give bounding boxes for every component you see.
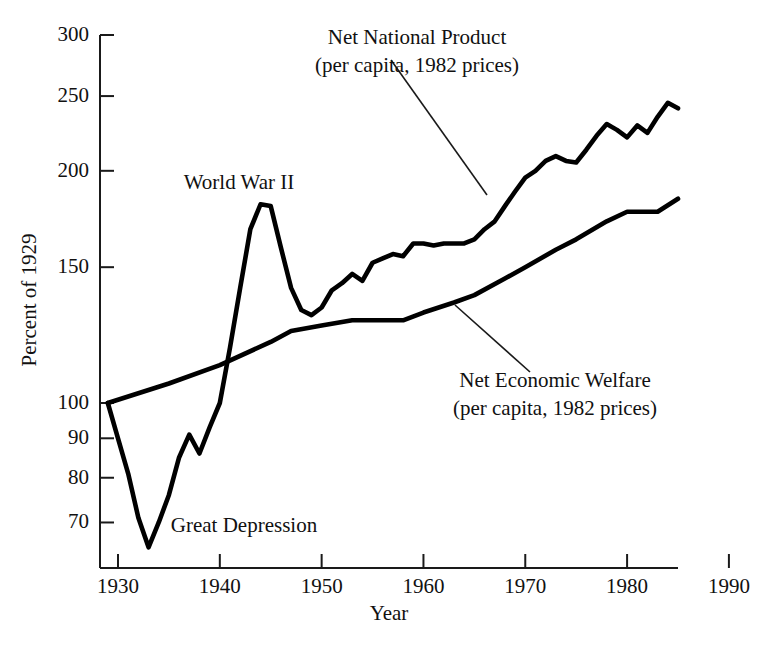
annotation-new-line1: Net Economic Welfare bbox=[459, 368, 651, 392]
x-axis-ticks: 1930194019501960197019801990 bbox=[97, 554, 750, 598]
annotation-nnp-line2: (per capita, 1982 prices) bbox=[315, 53, 519, 77]
x-axis-title: Year bbox=[370, 601, 409, 625]
leader-line-nnp bbox=[391, 60, 487, 195]
x-tick-label-1980: 1980 bbox=[606, 574, 648, 598]
y-tick-label-90: 90 bbox=[68, 425, 89, 449]
annotation-new-line2: (per capita, 1982 prices) bbox=[453, 396, 657, 420]
y-tick-label-100: 100 bbox=[58, 390, 90, 414]
y-tick-label-200: 200 bbox=[58, 158, 90, 182]
x-tick-label-1960: 1960 bbox=[402, 574, 444, 598]
y-tick-label-250: 250 bbox=[58, 83, 90, 107]
chart-container: 708090100150200250300 193019401950196019… bbox=[0, 0, 773, 646]
y-tick-label-70: 70 bbox=[68, 509, 89, 533]
x-tick-label-1970: 1970 bbox=[504, 574, 546, 598]
x-tick-label-1950: 1950 bbox=[301, 574, 343, 598]
x-tick-label-1990: 1990 bbox=[708, 574, 750, 598]
x-tick-label-1940: 1940 bbox=[199, 574, 241, 598]
y-tick-label-150: 150 bbox=[58, 254, 90, 278]
y-axis-ticks: 708090100150200250300 bbox=[58, 22, 115, 533]
economics-line-chart: 708090100150200250300 193019401950196019… bbox=[0, 0, 773, 646]
annotation-nnp-line1: Net National Product bbox=[328, 25, 507, 49]
annotation-world-war-ii: World War II bbox=[184, 170, 295, 194]
x-tick-label-1930: 1930 bbox=[97, 574, 139, 598]
annotation-great-depression: Great Depression bbox=[171, 513, 318, 537]
y-axis-title: Percent of 1929 bbox=[17, 234, 41, 367]
y-tick-label-300: 300 bbox=[58, 22, 90, 46]
leader-line-new bbox=[455, 305, 530, 372]
y-tick-label-80: 80 bbox=[68, 465, 89, 489]
